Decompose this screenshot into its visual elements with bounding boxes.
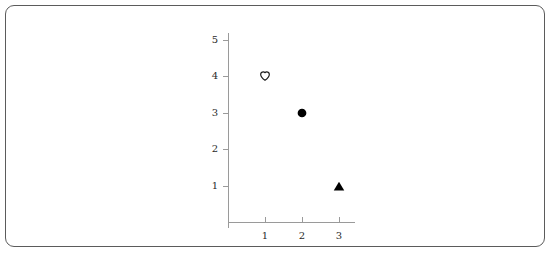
- x-tick-label-3: 3: [332, 231, 346, 241]
- y-tick-label-2: 2: [204, 144, 218, 154]
- y-axis-line: [228, 33, 229, 228]
- y-tick-label-4: 4: [204, 71, 218, 81]
- x-tick-2: [302, 217, 303, 222]
- y-tick-label-1: 1: [204, 181, 218, 191]
- y-tick-5: [223, 40, 228, 41]
- x-axis-line: [228, 222, 355, 223]
- x-tick-3: [339, 217, 340, 222]
- data-point-circle-filled: [297, 108, 308, 119]
- x-tick-label-1: 1: [258, 231, 272, 241]
- y-tick-label-3: 3: [204, 108, 218, 118]
- y-tick-4: [223, 76, 228, 77]
- y-tick-label-5: 5: [204, 35, 218, 45]
- data-point-heart-open: [260, 71, 271, 82]
- y-tick-3: [223, 113, 228, 114]
- figure-container: 12345123: [0, 0, 554, 255]
- y-tick-1: [223, 186, 228, 187]
- x-tick-1: [265, 217, 266, 222]
- x-tick-label-2: 2: [295, 231, 309, 241]
- plot-area: 12345123: [0, 0, 554, 255]
- y-tick-2: [223, 149, 228, 150]
- data-point-triangle-up-filled: [333, 181, 345, 192]
